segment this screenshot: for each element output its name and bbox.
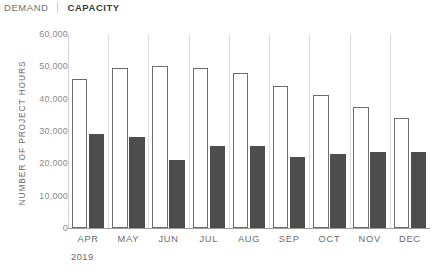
x-tick-label: NOV	[359, 234, 381, 244]
y-tick-label: 40,000	[8, 94, 68, 104]
x-tick-label: JUN	[158, 234, 178, 244]
group-separator	[390, 34, 391, 228]
bar-group	[350, 34, 390, 228]
bar-capacity	[169, 160, 185, 228]
bar-group	[108, 34, 148, 228]
bar-chart: NUMBER OF PROJECT HOURS 010,00020,00030,…	[0, 0, 440, 278]
x-tick-label: MAY	[118, 234, 140, 244]
bar-demand	[233, 73, 249, 228]
bar-capacity	[89, 134, 105, 228]
x-axis-line	[68, 228, 430, 229]
group-separator	[148, 34, 149, 228]
y-tick-label: 10,000	[8, 191, 68, 201]
bar-demand	[152, 66, 168, 228]
x-tick-label: APR	[78, 234, 99, 244]
x-tick-label: SEP	[279, 234, 300, 244]
plot-area	[68, 34, 430, 228]
bar-capacity	[290, 157, 306, 228]
bar-capacity	[411, 152, 427, 228]
bar-group	[269, 34, 309, 228]
x-tick-label: OCT	[319, 234, 341, 244]
bar-capacity	[330, 154, 346, 228]
y-tick-label: 50,000	[8, 61, 68, 71]
group-separator	[350, 34, 351, 228]
bar-demand	[72, 79, 88, 228]
x-tick-label: DEC	[399, 234, 421, 244]
bar-demand	[394, 118, 410, 228]
group-separator	[189, 34, 190, 228]
bar-capacity	[129, 137, 145, 228]
y-tick-label: 0	[8, 223, 68, 233]
y-tick-label: 30,000	[8, 126, 68, 136]
bar-demand	[193, 68, 209, 228]
group-separator	[269, 34, 270, 228]
bar-group	[390, 34, 430, 228]
bar-group	[189, 34, 229, 228]
bar-capacity	[370, 152, 386, 228]
bar-group	[309, 34, 349, 228]
x-axis-year-label: 2019	[71, 252, 94, 262]
bar-demand	[112, 68, 128, 228]
y-tick-label: 20,000	[8, 158, 68, 168]
bar-capacity	[250, 146, 266, 228]
group-separator	[309, 34, 310, 228]
bar-group	[229, 34, 269, 228]
group-separator	[229, 34, 230, 228]
bar-demand	[353, 107, 369, 228]
x-tick-label: JUL	[199, 234, 218, 244]
y-tick-label: 60,000	[8, 29, 68, 39]
bar-demand	[313, 95, 329, 228]
bar-group	[148, 34, 188, 228]
bar-group	[68, 34, 108, 228]
x-tick-label: AUG	[238, 234, 260, 244]
bar-demand	[273, 86, 289, 228]
bar-capacity	[210, 146, 226, 228]
group-separator	[108, 34, 109, 228]
